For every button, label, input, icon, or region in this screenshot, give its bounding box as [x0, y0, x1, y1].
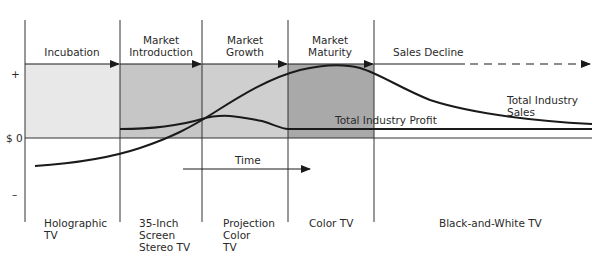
stage-label-growth: Market Growth	[226, 34, 264, 58]
product-label-projection: Projection Color TV	[223, 217, 275, 253]
product-life-cycle-diagram: + $ 0 – Incubation Market Introduction M…	[0, 0, 598, 260]
profit-curve-label: Total Industry Profit	[335, 114, 437, 126]
stage-label-incubation: Incubation	[44, 46, 99, 58]
incubation-region	[25, 64, 120, 138]
stage-label-decline: Sales Decline	[393, 46, 464, 58]
time-label: Time	[235, 154, 261, 166]
sales-curve-label: Total Industry Sales	[507, 94, 598, 118]
maturity-region	[288, 64, 374, 138]
stage-label-maturity: Market Maturity	[308, 34, 352, 58]
product-label-35inch: 35-Inch Screen Stereo TV	[139, 217, 190, 253]
product-label-color-tv: Color TV	[309, 217, 353, 229]
axis-zero-label: $ 0	[6, 132, 23, 144]
product-label-holographic: Holographic TV	[44, 217, 107, 241]
growth-region	[202, 64, 288, 138]
product-label-bw-tv: Black-and-White TV	[439, 217, 542, 229]
stage-label-introduction: Market Introduction	[129, 34, 193, 58]
axis-minus-label: –	[12, 188, 17, 200]
axis-plus-label: +	[11, 68, 20, 80]
